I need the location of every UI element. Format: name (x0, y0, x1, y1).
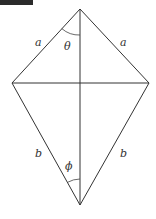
edge-top-right (80, 9, 149, 83)
edge-bottom-right (80, 83, 149, 205)
theta-angle-arc (62, 29, 80, 35)
kite-diagram: a a θ b b ϕ (0, 0, 156, 219)
side-label-upper-left: a (35, 36, 42, 49)
phi-angle-arc (67, 179, 80, 182)
side-label-lower-right: b (120, 147, 127, 160)
edge-bottom-left (12, 83, 80, 205)
side-label-lower-left: b (35, 147, 42, 160)
side-label-upper-right: a (120, 36, 127, 49)
angle-label-phi: ϕ (65, 160, 73, 173)
angle-label-theta: θ (64, 40, 71, 53)
